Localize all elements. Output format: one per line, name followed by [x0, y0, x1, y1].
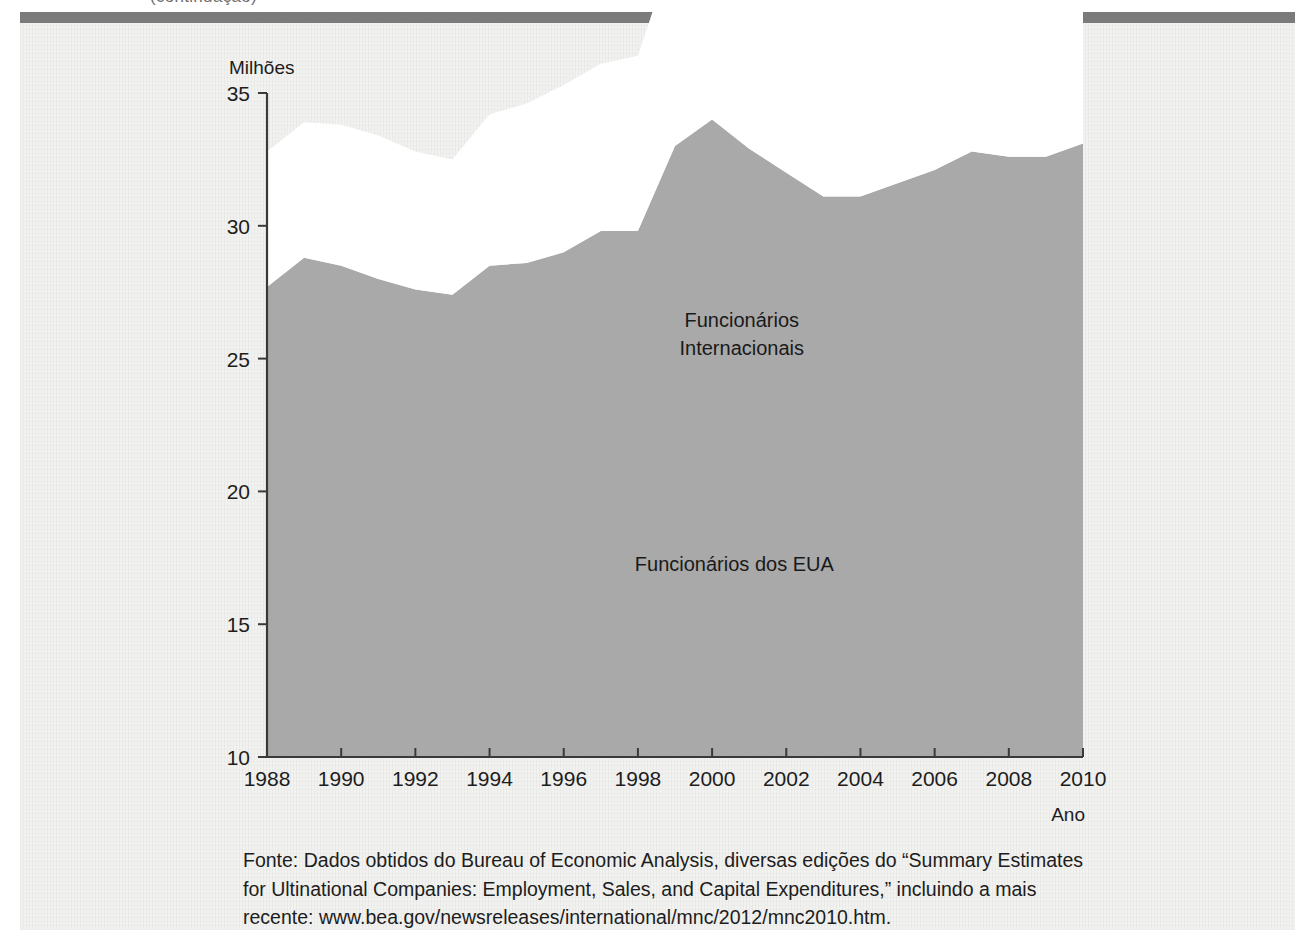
y-axis-unit-label: Milhões — [229, 57, 294, 78]
chart-surface: 1015202530351988199019921994199619982000… — [0, 0, 1315, 940]
y-tick-label-15: 15 — [227, 613, 250, 636]
x-tick-label-1996: 1996 — [540, 767, 587, 790]
figure-root: (continuação) 10152025303519881990199219… — [0, 0, 1315, 940]
x-tick-label-2002: 2002 — [763, 767, 810, 790]
y-tick-label-10: 10 — [227, 746, 250, 769]
x-tick-label-1994: 1994 — [466, 767, 513, 790]
x-tick-label-2010: 2010 — [1060, 767, 1107, 790]
source-note: Fonte: Dados obtidos do Bureau of Econom… — [243, 846, 1143, 932]
y-tick-label-35: 35 — [227, 82, 250, 105]
y-tick-label-30: 30 — [227, 215, 250, 238]
y-tick-label-20: 20 — [227, 480, 250, 503]
area-series-group — [267, 0, 1083, 757]
series-label-us-employees: Funcionários dos EUA — [635, 553, 835, 575]
x-tick-label-1992: 1992 — [392, 767, 439, 790]
source-note-line-1: Fonte: Dados obtidos do Bureau of Econom… — [243, 846, 1143, 875]
stacked-area-chart: 1015202530351988199019921994199619982000… — [0, 0, 1315, 940]
source-note-line-3: recente: www.bea.gov/newsreleases/intern… — [243, 903, 1143, 932]
x-tick-label-1988: 1988 — [244, 767, 291, 790]
x-tick-label-1990: 1990 — [318, 767, 365, 790]
x-tick-label-2008: 2008 — [985, 767, 1032, 790]
x-tick-label-2006: 2006 — [911, 767, 958, 790]
x-axis-name-label: Ano — [1051, 804, 1085, 825]
y-tick-label-25: 25 — [227, 348, 250, 371]
x-tick-label-2004: 2004 — [837, 767, 884, 790]
x-tick-label-2000: 2000 — [689, 767, 736, 790]
x-tick-label-1998: 1998 — [615, 767, 662, 790]
source-note-line-2: for Ultinational Companies: Employment, … — [243, 875, 1143, 904]
